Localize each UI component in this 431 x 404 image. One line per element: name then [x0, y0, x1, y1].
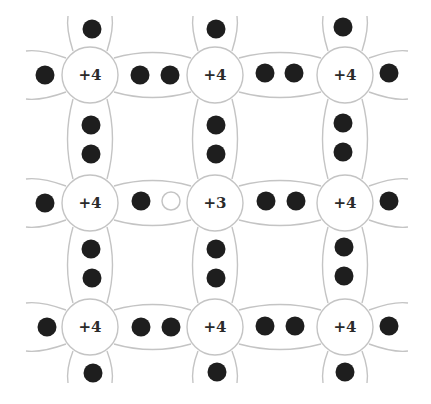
silicon-atom: +4: [317, 47, 373, 103]
bond-lobe-vertical: [232, 99, 238, 179]
bond-lobe-vertical: [323, 227, 329, 303]
electron-dot: [285, 64, 304, 83]
electron-dot: [36, 66, 55, 85]
electron-dot: [207, 20, 226, 39]
bond-stub-bottom: [323, 351, 328, 383]
electron-dot: [82, 240, 101, 259]
silicon-atom: +4: [62, 299, 118, 355]
silicon-atom: +4: [62, 175, 118, 231]
atom-charge-label: +4: [333, 318, 356, 336]
bond-lobe-horizontal: [239, 53, 321, 59]
bond-lobe-horizontal: [114, 53, 191, 59]
bond-lobe-horizontal: [114, 220, 191, 226]
electron-dot: [84, 364, 103, 383]
electron-dot: [131, 66, 150, 85]
electron-dot: [335, 238, 354, 257]
bond-stub-top: [232, 16, 237, 51]
bond-stub-left: [26, 303, 66, 310]
electron-dot: [162, 318, 181, 337]
atom-charge-label: +4: [78, 66, 101, 84]
hole-circle: [162, 192, 180, 210]
bond-lobe-horizontal: [239, 220, 321, 226]
bond-stub-bottom: [362, 351, 367, 383]
electron-dot: [256, 317, 275, 336]
bond-stub-top: [362, 16, 367, 51]
electron-dot: [207, 145, 226, 164]
electron-dot: [83, 269, 102, 288]
silicon-atom: +4: [187, 299, 243, 355]
atom-charge-label: +4: [333, 194, 356, 212]
bond-stub-right: [369, 344, 408, 351]
bond-stub-right: [369, 179, 408, 186]
bond-stub-top: [107, 16, 112, 51]
electron-dot: [380, 192, 399, 211]
atom-charge-label: +4: [203, 318, 226, 336]
atom-charge-label: +4: [333, 66, 356, 84]
holes: [162, 192, 180, 210]
atom-charge-label: +3: [203, 194, 226, 212]
bond-stub-left: [26, 51, 66, 58]
bond-lobe-horizontal: [114, 305, 191, 311]
electron-dot: [83, 20, 102, 39]
electron-dot: [38, 318, 57, 337]
atom-charge-label: +4: [78, 194, 101, 212]
electron-dot: [380, 317, 399, 336]
bond-stub-left: [26, 344, 66, 351]
electron-dot: [334, 114, 353, 133]
bond-stub-bottom: [107, 351, 112, 383]
bond-stub-top: [323, 16, 328, 51]
electron-dot: [207, 240, 226, 259]
bond-lobe-horizontal: [114, 92, 191, 98]
bond-stub-left: [26, 92, 66, 99]
bond-lobe-horizontal: [114, 181, 191, 187]
electron-dot: [287, 192, 306, 211]
bond-lobe-vertical: [232, 227, 238, 303]
crystal-lattice-diagram: +4+4+4+4+3+4+4+4+4: [0, 0, 431, 404]
bond-lobe-vertical: [362, 227, 368, 303]
bond-stub-left: [26, 220, 66, 227]
electron-dot: [256, 64, 275, 83]
bond-stub-right: [369, 303, 408, 310]
bond-lobe-horizontal: [239, 92, 321, 98]
silicon-atom: +4: [317, 175, 373, 231]
atom-charge-label: +4: [203, 66, 226, 84]
atom-charge-label: +4: [78, 318, 101, 336]
bond-stub-bottom: [68, 351, 73, 383]
bond-stub-bottom: [193, 351, 198, 383]
electron-dot: [132, 318, 151, 337]
electron-dot: [161, 66, 180, 85]
bond-stub-top: [68, 16, 73, 51]
bond-lobe-horizontal: [239, 181, 321, 187]
bond-lobe-vertical: [193, 227, 199, 303]
bond-stub-top: [193, 16, 198, 51]
bond-lobe-vertical: [362, 99, 368, 179]
bond-lobe-vertical: [107, 227, 113, 303]
electron-dot: [335, 267, 354, 286]
electron-dot: [208, 363, 227, 382]
impurity-atom: +3: [187, 175, 243, 231]
electron-dot: [334, 143, 353, 162]
electron-dot: [207, 269, 226, 288]
electron-dot: [334, 18, 353, 37]
bond-lobe-horizontal: [239, 305, 321, 311]
electron-dot: [132, 192, 151, 211]
electron-dot: [207, 116, 226, 135]
silicon-atom: +4: [317, 299, 373, 355]
atom-cores: +4+4+4+4+3+4+4+4+4: [62, 47, 373, 355]
bond-lobe-horizontal: [239, 344, 321, 350]
electron-dot: [336, 363, 355, 382]
electron-dot: [82, 145, 101, 164]
electron-dot: [36, 194, 55, 213]
bond-lobe-vertical: [193, 99, 199, 179]
bond-lobe-vertical: [68, 227, 74, 303]
bond-lobe-vertical: [68, 99, 74, 179]
electron-dot: [380, 64, 399, 83]
bond-stub-right: [369, 51, 408, 58]
bond-stub-bottom: [232, 351, 237, 383]
electron-dot: [82, 116, 101, 135]
electron-dot: [257, 192, 276, 211]
bond-lobe-vertical: [323, 99, 329, 179]
silicon-atom: +4: [62, 47, 118, 103]
bond-stub-left: [26, 179, 66, 186]
bond-lobe-vertical: [107, 99, 113, 179]
